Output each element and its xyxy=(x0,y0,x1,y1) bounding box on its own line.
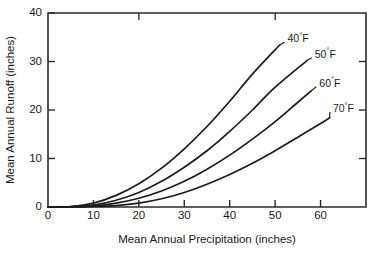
y-axis-title: Mean Annual Runoff (inches) xyxy=(4,36,16,184)
x-tick-label: 20 xyxy=(132,209,145,221)
runoff-precipitation-chart: 0102030405060 010203040 40°F50°F60°F70°F… xyxy=(0,0,374,253)
chart-container: 0102030405060 010203040 40°F50°F60°F70°F… xyxy=(0,0,374,253)
x-axis-title: Mean Annual Precipitation (inches) xyxy=(118,233,296,245)
y-tick-label: 0 xyxy=(36,200,42,212)
y-tick-label: 40 xyxy=(29,6,42,18)
series-label-60F: 60°F xyxy=(319,75,340,88)
y-tick-label: 30 xyxy=(29,55,42,67)
x-tick-label: 0 xyxy=(45,209,51,221)
series-label-40F: 40°F xyxy=(288,31,309,44)
series-label-70F: 70°F xyxy=(333,101,354,114)
x-tick-label: 50 xyxy=(269,209,282,221)
x-tick-label: 30 xyxy=(178,209,191,221)
y-tick-label: 10 xyxy=(29,152,42,164)
x-tick-label: 40 xyxy=(223,209,236,221)
y-tick-label: 20 xyxy=(29,103,42,115)
x-tick-label: 60 xyxy=(314,209,327,221)
x-tick-label: 10 xyxy=(87,209,100,221)
series-label-50F: 50°F xyxy=(315,46,336,59)
